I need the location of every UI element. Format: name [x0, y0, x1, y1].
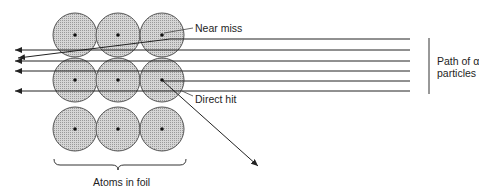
atom: [140, 107, 184, 151]
atoms-brace: [54, 159, 186, 170]
atom: [96, 58, 140, 102]
path-of-alpha-label-line2: particles: [437, 67, 476, 79]
atom: [53, 107, 97, 151]
direct-hit-label: Direct hit: [195, 93, 236, 105]
direct-hit-leader: [182, 91, 193, 96]
atom: [96, 107, 140, 151]
atom: [140, 58, 184, 102]
atom: [53, 58, 97, 102]
path-of-alpha-label-line1: Path of α: [437, 55, 479, 67]
near-miss-label: Near miss: [195, 22, 242, 34]
atoms-in-foil-label: Atoms in foil: [93, 176, 150, 188]
